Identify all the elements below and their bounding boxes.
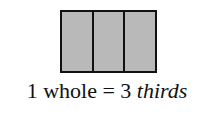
caption-number-left: 1 bbox=[27, 78, 38, 103]
caption-equals: = bbox=[102, 78, 114, 103]
whole-rectangle bbox=[60, 10, 157, 73]
third-part-1 bbox=[62, 12, 92, 71]
caption-word-left: whole bbox=[43, 78, 97, 103]
third-part-3 bbox=[123, 12, 155, 71]
caption: 1 whole = 3 thirds bbox=[0, 78, 214, 104]
third-part-2 bbox=[92, 12, 124, 71]
caption-word-right: thirds bbox=[137, 78, 188, 103]
caption-number-right: 3 bbox=[120, 78, 131, 103]
